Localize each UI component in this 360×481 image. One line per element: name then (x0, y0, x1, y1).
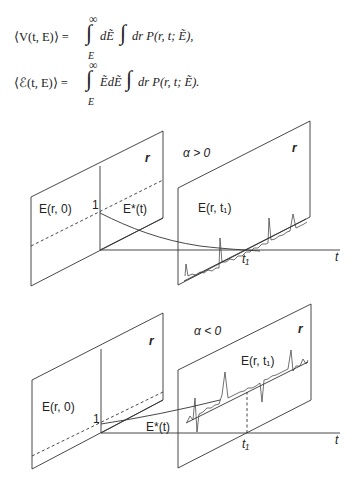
e-star-curve (100, 213, 260, 251)
panel-alpha-negative-labels: E(r, 0) r 1 E*(t) α < 0 r E(r, t₁) t₁ t (42, 322, 339, 451)
time-mark: t₁ (242, 437, 249, 451)
final-plane-label: E(r, t₁) (198, 201, 231, 215)
condition-label: α > 0 (183, 146, 211, 160)
initial-plane-label: E(r, 0) (39, 202, 72, 216)
final-plane-r-label: r (298, 322, 304, 336)
initial-plane (32, 313, 163, 469)
panel-alpha-positive-labels: E(r, 0) r 1 E*(t) α > 0 r E(r, t₁) t₁ t (39, 141, 339, 266)
time-mark: t₁ (242, 252, 249, 266)
curve-label: E*(t) (146, 420, 170, 434)
time-axis-label: t (335, 433, 339, 447)
final-plane-label: E(r, t₁) (241, 354, 274, 368)
value-mark: 1 (92, 198, 99, 212)
r-axis (100, 218, 163, 250)
panel-alpha-negative (32, 304, 340, 469)
initial-plane-label: E(r, 0) (42, 400, 75, 414)
initial-plane-r-label: r (149, 334, 155, 348)
initial-plane-r-label: r (145, 151, 151, 165)
final-plane-r-label: r (292, 141, 298, 155)
evolution-diagram: E(r, 0) r 1 E*(t) α > 0 r E(r, t₁) t₁ t … (0, 0, 360, 481)
curve-label: E*(t) (123, 202, 147, 216)
value-mark: 1 (93, 412, 100, 426)
condition-label: α < 0 (194, 324, 222, 338)
noisy-signal (185, 214, 307, 276)
time-axis-label: t (335, 250, 339, 264)
